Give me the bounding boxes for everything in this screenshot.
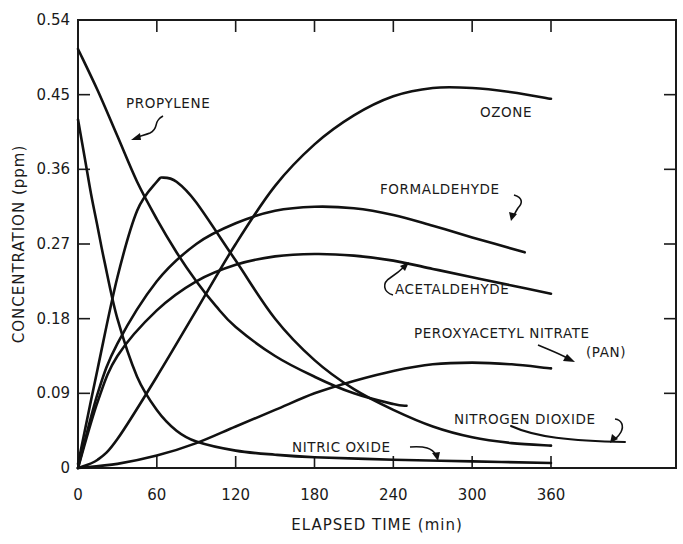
x-tick-label: 300 <box>458 486 487 504</box>
arrow-pan-icon <box>538 345 567 358</box>
label-pan-line1: PEROXYACETYL NITRATE <box>414 325 590 341</box>
x-tick-label: 360 <box>537 486 566 504</box>
y-tick-label: 0.45 <box>37 86 70 104</box>
y-axis-title: CONCENTRATION (ppm) <box>10 145 28 344</box>
x-tick-label: 180 <box>300 486 329 504</box>
label-nitric-oxide: NITRIC OXIDE <box>292 439 391 455</box>
label-pan-line2: (PAN) <box>586 344 626 360</box>
x-axis-title: ELAPSED TIME (min) <box>291 516 463 534</box>
arrowhead-formaldehyde-icon <box>509 212 517 221</box>
x-tick-label: 60 <box>147 486 166 504</box>
tick-labels: 06012018024030036000.090.180.270.360.450… <box>37 11 566 504</box>
y-tick-label: 0 <box>60 459 70 477</box>
y-tick-label: 0.27 <box>37 235 70 253</box>
y-tick-label: 0.18 <box>37 310 70 328</box>
label-acetaldehyde: ACETALDEHYDE <box>395 281 509 297</box>
chart-canvas: 06012018024030036000.090.180.270.360.450… <box>0 0 683 544</box>
x-tick-label: 240 <box>379 486 408 504</box>
label-ozone: OZONE <box>480 104 532 120</box>
y-tick-label: 0.54 <box>37 11 70 29</box>
x-tick-label: 0 <box>73 486 83 504</box>
arrow-nitric-oxide-icon <box>410 447 436 455</box>
nitrogen-dioxide-tail <box>511 426 625 442</box>
x-tick-label: 120 <box>221 486 250 504</box>
label-propylene: PROPYLENE <box>126 95 210 111</box>
label-nitrogen-dioxide: NITROGEN DIOXIDE <box>454 411 596 427</box>
arrowhead-pan-icon <box>563 354 575 362</box>
y-tick-label: 0.09 <box>37 384 70 402</box>
arrowhead-propylene-icon <box>131 133 141 140</box>
label-formaldehyde: FORMALDEHYDE <box>380 181 500 197</box>
y-tick-label: 0.36 <box>37 160 70 178</box>
